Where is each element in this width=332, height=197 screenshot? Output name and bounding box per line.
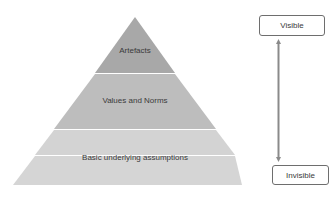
label-basic-underlying-assumptions: Basic underlying assumptions — [55, 153, 215, 162]
arrow-head-up-icon — [276, 39, 281, 44]
visible-box: Visible — [259, 15, 325, 36]
arrow-head-down-icon — [276, 157, 281, 162]
layer-assumptions-upper — [35, 130, 235, 155]
layer-artefacts — [95, 17, 175, 73]
label-artefacts: Artefacts — [105, 46, 165, 55]
label-values-and-norms: Values and Norms — [85, 96, 185, 105]
invisible-box: Invisible — [272, 165, 329, 185]
